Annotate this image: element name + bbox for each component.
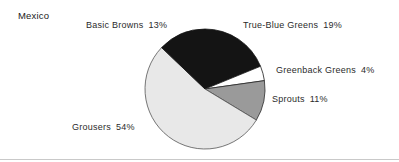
figure-bottom-rule <box>0 159 399 160</box>
slice-label-sprouts-value: 11% <box>310 94 328 104</box>
pie-slice-group <box>145 29 265 149</box>
slice-label-greenback-greens: Greenback Greens4% <box>276 65 375 75</box>
pie-chart-figure: Mexico Basic Browns13% True-Blue Greens1… <box>0 0 399 162</box>
slice-label-basic-browns-value: 13% <box>149 20 168 30</box>
slice-label-true-blue-greens: True-Blue Greens19% <box>243 20 342 30</box>
slice-label-grousers-value: 54% <box>116 122 135 132</box>
slice-label-greenback-greens-text: Greenback Greens <box>276 65 356 75</box>
slice-label-grousers: Grousers54% <box>72 122 135 132</box>
slice-label-sprouts-text: Sprouts <box>272 94 305 104</box>
slice-label-grousers-text: Grousers <box>72 122 111 132</box>
slice-label-greenback-greens-value: 4% <box>361 65 375 75</box>
slice-label-true-blue-greens-value: 19% <box>323 20 342 30</box>
slice-label-true-blue-greens-text: True-Blue Greens <box>243 20 318 30</box>
slice-label-basic-browns: Basic Browns13% <box>86 20 167 30</box>
slice-label-sprouts: Sprouts11% <box>272 94 328 104</box>
slice-label-basic-browns-text: Basic Browns <box>86 20 144 30</box>
